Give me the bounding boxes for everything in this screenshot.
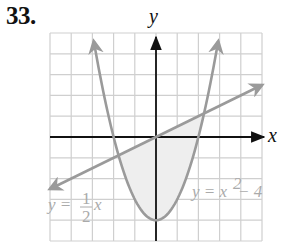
parabola-label-tail: − 4 <box>238 182 263 201</box>
line-label-var: x <box>93 195 102 214</box>
graph: y x y = x 2 − 4 y = 1 2 x <box>0 0 283 251</box>
line-label-numerator: 1 <box>82 189 91 208</box>
line-label-denominator: 2 <box>82 207 91 226</box>
x-axis-label: x <box>267 124 277 146</box>
line-label-lhs: y = <box>46 195 71 214</box>
y-axis-label: y <box>147 5 158 28</box>
parabola-label-main: y = x <box>190 182 228 201</box>
